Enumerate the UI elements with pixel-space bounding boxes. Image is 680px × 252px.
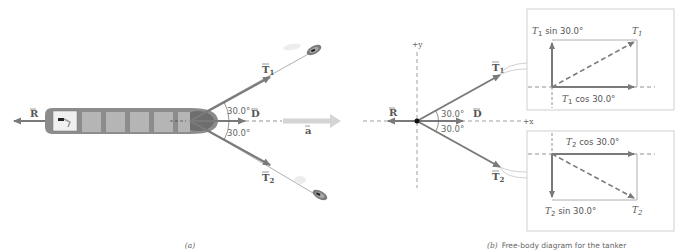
cargo-hold bbox=[106, 112, 125, 132]
tugboat-2 bbox=[294, 176, 329, 202]
axis-label-y: +y bbox=[412, 40, 423, 49]
label-a: a bbox=[305, 125, 312, 136]
origin-point bbox=[415, 119, 420, 124]
bridge bbox=[53, 111, 77, 131]
cargo-hold bbox=[154, 112, 173, 132]
panel-b: +y +x R D T1 T2 30.0° 30.0° bbox=[363, 9, 674, 250]
cargo-hold bbox=[82, 112, 101, 132]
panel-a: R D a T1 T2 30.0° 30.0° bbox=[14, 42, 341, 250]
fbd-label-r: R bbox=[389, 107, 398, 118]
label-t1: T1 bbox=[262, 64, 274, 77]
fbd-label-t1: T1 bbox=[492, 62, 504, 75]
component-box-t2: T2 cos 30.0° T2 sin 30.0° T2 bbox=[527, 131, 674, 231]
bridge-detail bbox=[58, 118, 64, 121]
cargo-hold bbox=[130, 112, 149, 132]
label-r: R bbox=[30, 108, 39, 119]
acceleration-arrow bbox=[283, 114, 341, 128]
component-box-t1: T1 sin 30.0° T1 T1 cos 30.0° bbox=[527, 9, 674, 110]
cargo-hold bbox=[178, 112, 190, 132]
label-t2: T2 bbox=[262, 172, 274, 185]
label-d: D bbox=[251, 108, 260, 119]
fbd-angle-lower: 30.0° bbox=[441, 124, 464, 134]
fbd-label-d: D bbox=[473, 108, 482, 119]
angle-lower: 30.0° bbox=[227, 128, 250, 138]
caption-b: (b)Free-body diagram for the tanker bbox=[487, 241, 627, 250]
caption-a: (a) bbox=[185, 241, 195, 250]
fbd-angle-upper: 30.0° bbox=[441, 109, 464, 119]
axis-label-x: +x bbox=[523, 117, 534, 126]
angle-upper: 30.0° bbox=[227, 106, 250, 116]
tugboat-1 bbox=[283, 42, 323, 57]
tanker-diagram: R D a T1 T2 30.0° 30.0° bbox=[0, 0, 680, 252]
fbd-label-t2: T2 bbox=[492, 171, 504, 184]
